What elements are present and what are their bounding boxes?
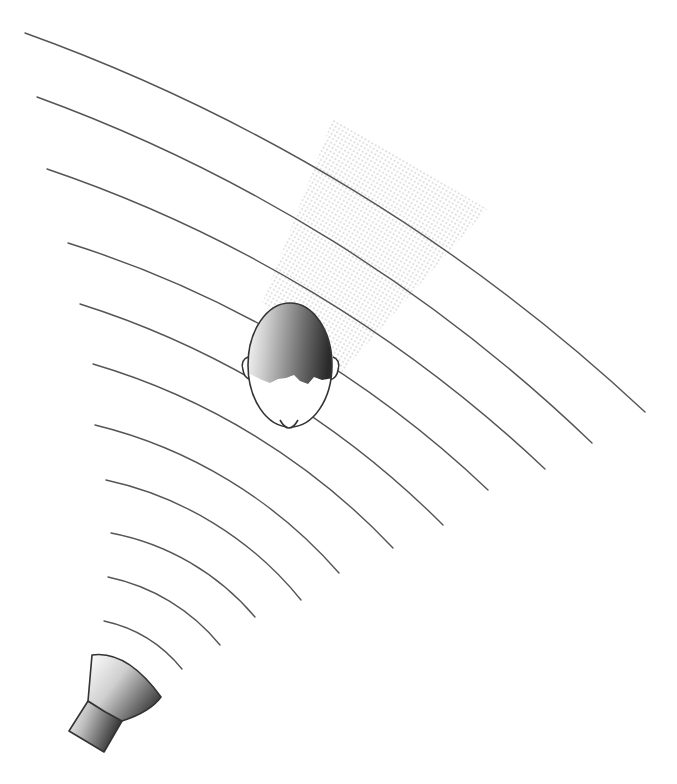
- diagram-canvas: [0, 0, 677, 784]
- sound-wave-arc: [108, 577, 220, 645]
- sound-propagation-diagram: [0, 0, 677, 784]
- sound-wave-arc: [106, 480, 301, 600]
- sound-wave-arc: [93, 364, 393, 548]
- sound-wave-arc: [111, 533, 255, 617]
- sound-wave-arc: [95, 425, 339, 573]
- loudspeaker: [69, 655, 161, 752]
